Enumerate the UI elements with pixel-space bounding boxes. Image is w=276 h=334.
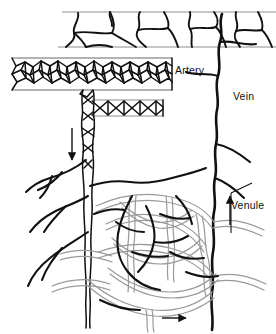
label-venule: Venule: [231, 199, 264, 211]
descending-arteriole: [80, 90, 94, 328]
label-vein: Vein: [233, 90, 254, 102]
microcirculation-figure: Artery Vein Venule: [0, 0, 276, 334]
anatomical-diagram-svg: [0, 0, 276, 334]
superficial-vascular-plexus: [12, 58, 172, 90]
epidermis-layer: [58, 12, 276, 47]
label-artery: Artery: [175, 64, 204, 76]
deep-vascular-plexus: [92, 100, 164, 116]
